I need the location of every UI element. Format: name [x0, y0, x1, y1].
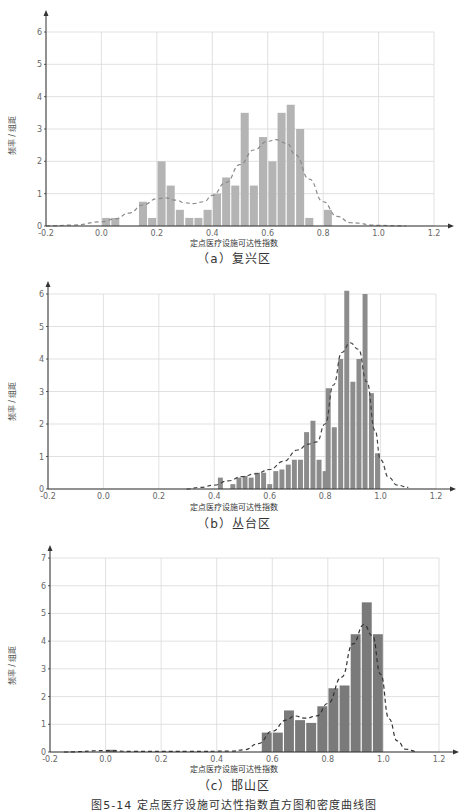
y-tick-label: 1 — [41, 720, 46, 729]
histogram-bar — [373, 634, 383, 752]
histogram-bar — [295, 720, 305, 752]
histogram-bar — [262, 733, 272, 752]
histogram-bar — [273, 733, 283, 752]
x-axis-arrow-icon — [453, 750, 459, 755]
x-axis-label: 定点医疗设施可达性指数 — [0, 763, 468, 774]
y-tick-label: 6 — [41, 582, 46, 591]
figure-caption: 图5-14 定点医疗设施可达性指数直方图和密度曲线图 — [0, 796, 468, 812]
histogram-bar — [340, 685, 350, 752]
axes: 01234567-0.20.00.20.40.60.81.01.2 — [41, 545, 459, 764]
histogram-bar — [306, 723, 316, 752]
histogram-bar — [351, 634, 361, 752]
y-tick-label: 2 — [41, 693, 46, 702]
y-tick-label: 4 — [41, 637, 46, 646]
histogram-bar — [317, 706, 327, 752]
chart-caption: （c）邯山区 — [0, 776, 468, 793]
y-tick-label: 5 — [41, 609, 46, 618]
y-axis-label: 频率 / 组距 — [6, 646, 17, 686]
y-tick-label: 3 — [41, 665, 46, 674]
y-tick-label: 7 — [41, 554, 46, 563]
y-axis-arrow-icon — [48, 545, 53, 551]
histogram-bar — [328, 688, 338, 752]
